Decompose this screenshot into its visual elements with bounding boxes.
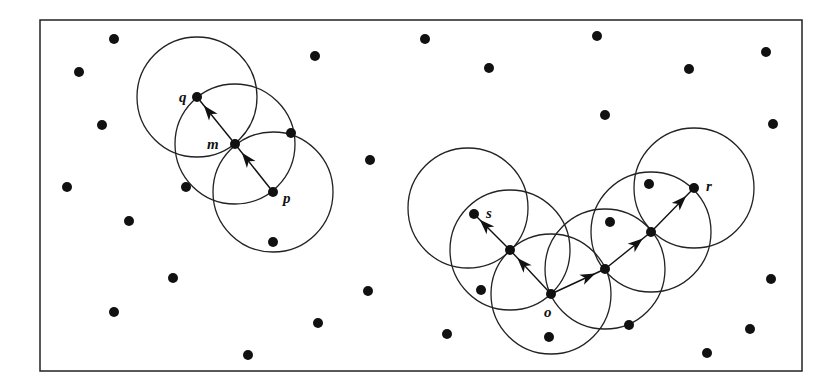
point-r	[689, 183, 699, 193]
data-point	[684, 64, 694, 74]
arrow-line	[474, 214, 510, 250]
label-q: q	[179, 89, 187, 105]
data-point	[74, 67, 84, 77]
data-point	[644, 179, 654, 189]
point-q	[192, 92, 202, 102]
label-m: m	[207, 136, 219, 152]
dbscan-diagram: qmpsor	[0, 0, 840, 387]
label-o: o	[544, 304, 552, 320]
data-point	[124, 216, 134, 226]
point-n2	[600, 264, 610, 274]
neighborhood-circles	[137, 37, 754, 354]
data-point	[605, 217, 615, 227]
arrow-head-icon	[238, 149, 256, 168]
data-point	[109, 34, 119, 44]
arrow-line	[551, 269, 605, 294]
arrow-line	[651, 188, 694, 232]
data-point	[420, 34, 430, 44]
data-point	[624, 320, 634, 330]
data-point	[442, 329, 452, 339]
point-o	[546, 289, 556, 299]
data-point	[745, 324, 755, 334]
arrow-line	[605, 232, 651, 269]
data-point	[600, 110, 610, 120]
point-n3	[646, 227, 656, 237]
point-m	[230, 139, 240, 149]
arrow-head-icon	[200, 102, 218, 121]
arrow-head-icon	[579, 268, 597, 284]
data-point	[109, 307, 119, 317]
point-n1	[505, 245, 515, 255]
label-s: s	[485, 205, 492, 221]
arrow-head-icon	[628, 234, 647, 252]
data-point	[313, 318, 323, 328]
data-point	[702, 348, 712, 358]
data-point	[168, 273, 178, 283]
data-point	[97, 120, 107, 130]
data-point	[766, 274, 776, 284]
data-point	[243, 350, 253, 360]
data-point	[363, 286, 373, 296]
data-point	[484, 63, 494, 73]
data-point	[476, 285, 486, 295]
data-point	[768, 119, 778, 129]
data-points	[62, 31, 778, 360]
data-point	[365, 155, 375, 165]
data-point	[62, 182, 72, 192]
point-s	[469, 209, 479, 219]
label-p: p	[281, 190, 291, 206]
data-point	[268, 237, 278, 247]
point-labels: qmpsor	[179, 89, 712, 320]
data-point	[181, 182, 191, 192]
point-p	[268, 187, 278, 197]
data-point	[286, 128, 296, 138]
data-point	[761, 47, 771, 57]
label-r: r	[706, 178, 712, 194]
data-point	[592, 31, 602, 41]
arrow-line	[235, 144, 273, 192]
data-point	[310, 51, 320, 61]
data-point	[544, 332, 554, 342]
